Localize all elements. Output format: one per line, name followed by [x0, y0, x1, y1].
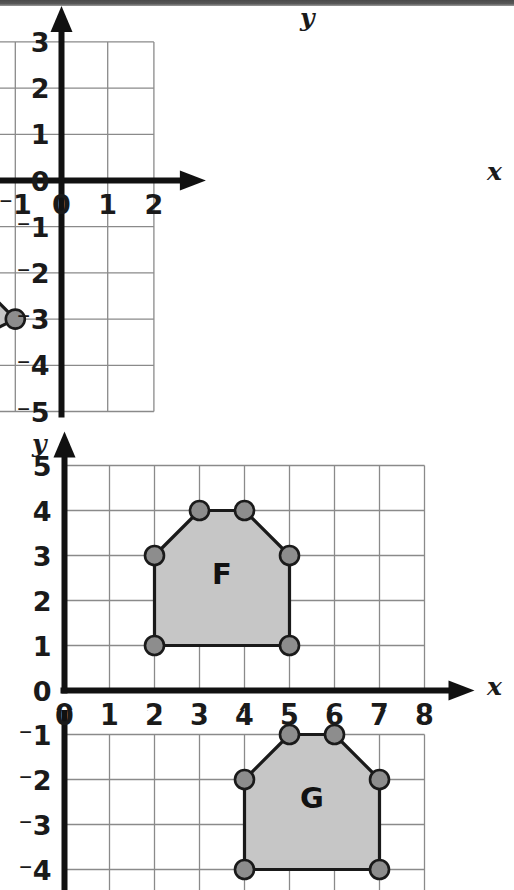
- x-axis-letter: x: [486, 672, 503, 701]
- x-tick-label: 5: [280, 698, 299, 711]
- y-tick-label: 3: [33, 541, 52, 572]
- y-tick-label: 0: [31, 166, 50, 197]
- y-tick-label: 4: [33, 496, 52, 527]
- x-tick-label: 5: [280, 710, 299, 731]
- x-tick-label: 1: [98, 189, 117, 220]
- y-axis-letter: y: [31, 429, 48, 458]
- coordinate-graph-2: F 012345678543210 x y: [0, 425, 514, 710]
- y-tick-label: ⁻4: [16, 350, 49, 381]
- y-tick-label: ⁻2: [16, 258, 49, 289]
- coordinate-graph-1: D ⁻6⁻5⁻4⁻3⁻2⁻10123210⁻1⁻2⁻3⁻4⁻5 x y: [0, 0, 514, 430]
- x-tick-label: 8: [415, 698, 434, 711]
- y-axis-letter: y: [299, 3, 316, 32]
- x-tick-label: 6: [325, 698, 344, 711]
- x-tick-label: 4: [235, 710, 254, 731]
- x-tick-label: 6: [325, 710, 344, 731]
- y-tick-label: 2: [31, 73, 50, 104]
- x-tick-label: 7: [370, 710, 389, 731]
- y-tick-label: ⁻2: [18, 765, 51, 796]
- y-tick-label: 2: [33, 586, 52, 617]
- y-tick-label: 3: [31, 27, 50, 58]
- x-tick-label: 1: [100, 698, 119, 711]
- y-tick-label: ⁻3: [16, 304, 49, 335]
- y-tick-label: ⁻1: [18, 720, 51, 751]
- graph-2-svg: F 012345678543210 x y: [0, 425, 514, 710]
- shape-label-F: F: [212, 557, 232, 591]
- y-tick-label: ⁻5: [16, 397, 49, 428]
- graph-1-svg: D ⁻6⁻5⁻4⁻3⁻2⁻10123210⁻1⁻2⁻3⁻4⁻5 x y: [0, 0, 514, 430]
- y-tick-label: 1: [33, 631, 52, 662]
- y-tick-label: 0: [33, 676, 52, 707]
- x-tick-label: 2: [145, 189, 164, 220]
- x-tick-label: 0: [52, 189, 71, 220]
- x-tick-label: 4: [235, 698, 254, 711]
- x-axis-letter: x: [486, 157, 503, 186]
- x-tick-label: 2: [145, 710, 164, 731]
- y-tick-label: 1: [31, 119, 50, 150]
- y-tick-label: ⁻4: [18, 855, 51, 886]
- shapes-layer-2: F: [145, 501, 299, 655]
- shape-label-G: G: [300, 781, 324, 815]
- y-tick-label: ⁻3: [18, 810, 51, 841]
- x-tick-label: 3: [190, 710, 209, 731]
- shapes-layer-3: G: [235, 725, 389, 879]
- x-tick-label: 7: [370, 698, 389, 711]
- x-tick-label: 0: [55, 698, 74, 711]
- x-tick-label: 1: [100, 710, 119, 731]
- graph-3-svg: G 012345678⁻1⁻2⁻3⁻4: [0, 710, 514, 890]
- worksheet-page: D ⁻6⁻5⁻4⁻3⁻2⁻10123210⁻1⁻2⁻3⁻4⁻5 x y F 01…: [0, 0, 514, 890]
- x-tick-label: 8: [415, 710, 434, 731]
- y-tick-label: ⁻1: [16, 212, 49, 243]
- x-tick-label: 2: [145, 698, 164, 711]
- coordinate-graph-3: G 012345678⁻1⁻2⁻3⁻4: [0, 710, 514, 890]
- x-tick-label: 3: [190, 698, 209, 711]
- x-tick-label: 0: [55, 710, 74, 731]
